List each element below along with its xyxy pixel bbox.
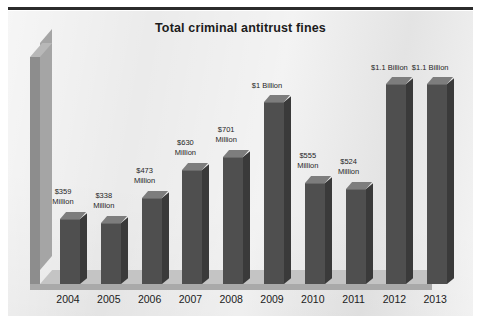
chart-page: Total criminal antitrust fines $359Milli…: [0, 0, 481, 323]
bar-value-label-line2: Million: [285, 161, 331, 171]
bar-value-label-line1: $555: [285, 151, 331, 161]
bar-side-face: [202, 164, 209, 284]
category-label-2004: 2004: [48, 293, 88, 305]
bar-value-label-line2: Million: [122, 176, 168, 186]
chart-title: Total criminal antitrust fines: [8, 21, 473, 35]
category-label-2009: 2009: [252, 293, 292, 305]
bar-value-label-line1: $359: [40, 187, 86, 197]
bar-value-label-line1: $1 Billion: [244, 81, 290, 91]
bar-side-face: [325, 177, 332, 284]
bar-value-label-2011: $524Million: [326, 157, 372, 176]
bar-value-label-2008: $701Million: [203, 125, 249, 144]
category-label-2010: 2010: [293, 293, 333, 305]
bar-value-label-2005: $338Million: [81, 191, 127, 210]
category-label-2008: 2008: [211, 293, 251, 305]
bar-2010: [305, 183, 325, 284]
bar-value-label-line2: Million: [162, 148, 208, 158]
bar-side-face: [406, 78, 413, 284]
bar-value-label-line2: Million: [81, 201, 127, 211]
bar-side-face: [447, 78, 454, 284]
bar-front-face: [346, 189, 366, 284]
bar-value-label-line1: $473: [122, 166, 168, 176]
bar-2005: [101, 223, 121, 284]
bar-value-label-2004: $359Million: [40, 187, 86, 206]
bar-2013: [427, 84, 447, 284]
category-label-2013: 2013: [415, 293, 455, 305]
category-label-2006: 2006: [130, 293, 170, 305]
bar-front-face: [142, 198, 162, 284]
bar-value-label-line2: Million: [203, 135, 249, 145]
bar-value-label-line1: $1.1 Billion: [407, 63, 453, 73]
bar-front-face: [427, 84, 447, 284]
bar-value-label-line1: $338: [81, 191, 127, 201]
bar-front-face: [60, 219, 80, 284]
bar-front-face: [101, 223, 121, 284]
category-label-2012: 2012: [374, 293, 414, 305]
bar-value-label-2012: $1.1 Billion: [366, 63, 412, 73]
bar-value-label-line1: $524: [326, 157, 372, 167]
bar-value-label-line1: $630: [162, 138, 208, 148]
bar-value-label-2007: $630Million: [162, 138, 208, 157]
chart-3d-stage: $359Million$338Million$473Million$630Mil…: [8, 11, 473, 316]
bar-side-face: [366, 183, 373, 284]
bar-series: $359Million$338Million$473Million$630Mil…: [30, 43, 442, 290]
bar-front-face: [223, 157, 243, 284]
bar-2008: [223, 157, 243, 284]
bar-2009: [264, 102, 284, 284]
bar-value-label-2010: $555Million: [285, 151, 331, 170]
bar-2004: [60, 219, 80, 284]
bar-side-face: [162, 192, 169, 284]
bar-2007: [182, 170, 202, 284]
bar-value-label-line2: Million: [40, 197, 86, 207]
bar-2012: [386, 84, 406, 284]
bar-front-face: [182, 170, 202, 284]
bar-value-label-line2: Million: [326, 167, 372, 177]
bar-front-face: [386, 84, 406, 284]
bar-side-face: [243, 151, 250, 284]
category-label-2011: 2011: [334, 293, 374, 305]
bar-side-face: [284, 96, 291, 284]
bar-side-face: [80, 213, 87, 284]
chart-figure: Total criminal antitrust fines $359Milli…: [8, 11, 473, 316]
bar-value-label-2006: $473Million: [122, 166, 168, 185]
top-divider-rule: [8, 7, 473, 10]
bar-value-label-line1: $701: [203, 125, 249, 135]
bar-value-label-2009: $1 Billion: [244, 81, 290, 91]
bar-2006: [142, 198, 162, 284]
bar-value-label-line1: $1.1 Billion: [366, 63, 412, 73]
category-axis-labels: 2004200520062007200820092010201120122013: [30, 293, 442, 313]
category-label-2005: 2005: [89, 293, 129, 305]
bar-value-label-2013: $1.1 Billion: [407, 63, 453, 73]
bar-2011: [346, 189, 366, 284]
bar-side-face: [121, 217, 128, 284]
bar-front-face: [264, 102, 284, 284]
bar-front-face: [305, 183, 325, 284]
category-label-2007: 2007: [170, 293, 210, 305]
